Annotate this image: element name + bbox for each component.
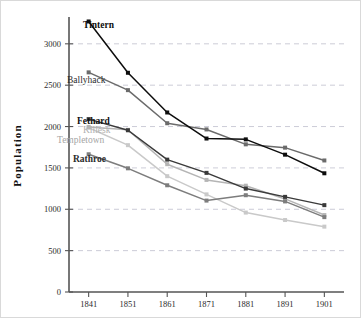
series-label-ballyhack: Ballyhack [67,75,106,85]
series-line-rathroe [89,154,325,217]
data-point-fethard [322,203,326,207]
data-point-fethard [165,158,169,162]
y-tick-label: 2500 [44,80,61,90]
data-point-ballyhack [205,127,209,131]
y-tick-label: 1000 [44,204,61,214]
data-point-ballyhack [244,142,248,146]
y-tick-label: 2000 [44,122,61,132]
series-label-templetown: Templetown [57,135,105,145]
data-point-tintern [205,137,209,141]
data-point-fethard [205,171,209,175]
chart-svg: 0500100015002000250030001841185118611871… [1,1,361,318]
data-point-ballyhack [165,121,169,125]
y-tick-label: 3000 [44,39,61,49]
chart-frame: 0500100015002000250030001841185118611871… [0,0,361,318]
data-point-tintern [322,171,326,175]
data-point-templetown [205,192,209,196]
data-point-rathroe [283,199,287,203]
data-point-rathroe [165,183,169,187]
series-label-tintern: Tintern [83,20,115,30]
data-point-fethard [283,195,287,199]
data-point-fethard [244,187,248,191]
data-point-tintern [126,71,130,75]
x-tick-label: 1891 [277,299,294,309]
y-tick-label: 1500 [44,163,61,173]
data-point-templetown [244,211,248,215]
data-point-killesk [205,178,209,182]
data-point-ballyhack [283,146,287,150]
data-point-rathroe [126,166,130,170]
data-point-templetown [126,143,130,147]
data-point-rathroe [244,193,248,197]
data-point-killesk [165,162,169,166]
series-line-templetown [89,128,325,227]
data-point-ballyhack [322,158,326,162]
x-tick-label: 1881 [237,299,254,309]
data-point-rathroe [322,215,326,219]
data-point-ballyhack [126,88,130,92]
data-point-templetown [165,174,169,178]
data-point-tintern [165,110,169,114]
data-point-fethard [126,128,130,132]
data-point-rathroe [205,199,209,203]
x-tick-label: 1901 [316,299,333,309]
data-point-templetown [283,218,287,222]
y-tick-label: 500 [48,246,61,256]
x-tick-label: 1871 [198,299,215,309]
x-tick-label: 1851 [119,299,136,309]
x-tick-label: 1861 [159,299,176,309]
y-axis-title: Population [11,124,23,186]
x-tick-label: 1841 [80,299,97,309]
data-point-tintern [244,137,248,141]
line-chart: 0500100015002000250030001841185118611871… [1,1,360,317]
data-point-tintern [283,153,287,157]
series-label-killesk: Killesk [83,125,111,135]
series-label-rathroe: Rathroe [73,154,106,164]
data-point-templetown [322,225,326,229]
series-line-fethard [89,119,325,205]
data-point-ballyhack [87,70,91,74]
y-tick-label: 0 [57,287,61,297]
